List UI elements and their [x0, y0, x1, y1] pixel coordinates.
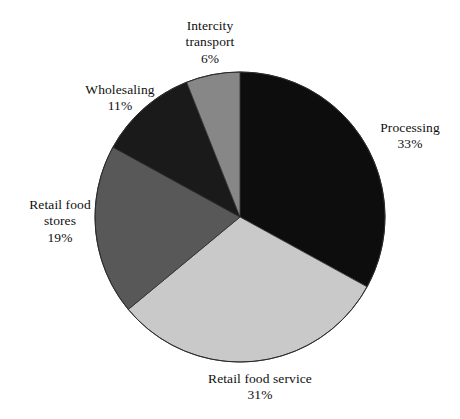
pie-chart: Intercity transport 6% Wholesaling 11% R… [0, 0, 460, 419]
pie-label-processing-line1: Processing [360, 120, 460, 136]
pie-label-retail-food-stores: Retail food stores 19% [2, 197, 118, 246]
pie-label-retail-food-stores-line2: stores [2, 213, 118, 229]
pie-label-intercity-transport: Intercity transport 6% [148, 18, 272, 67]
pie-label-wholesaling-line1: Wholesaling [56, 82, 184, 98]
pie-label-retail-food-service-percent: 31% [178, 387, 342, 403]
pie-label-retail-food-stores-line1: Retail food [2, 197, 118, 213]
pie-label-retail-food-service-line1: Retail food service [178, 371, 342, 387]
pie-label-intercity-transport-line2: transport [148, 34, 272, 50]
pie-label-wholesaling: Wholesaling 11% [56, 82, 184, 115]
pie-label-processing: Processing 33% [360, 120, 460, 153]
pie-label-retail-food-service: Retail food service 31% [178, 371, 342, 404]
pie-label-intercity-transport-line1: Intercity [148, 18, 272, 34]
pie-slices-group [95, 72, 385, 362]
pie-label-processing-percent: 33% [360, 136, 460, 152]
pie-label-wholesaling-percent: 11% [56, 98, 184, 114]
pie-label-retail-food-stores-percent: 19% [2, 230, 118, 246]
pie-label-intercity-transport-percent: 6% [148, 51, 272, 67]
